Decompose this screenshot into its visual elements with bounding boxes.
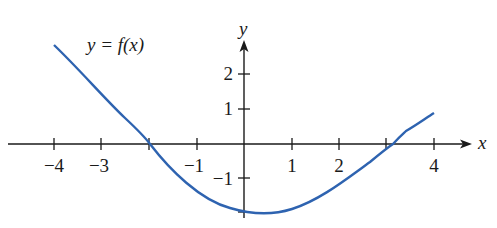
x-tick-label: 4 xyxy=(429,155,439,176)
x-axis-label: x xyxy=(477,132,487,153)
y-tick-label: 2 xyxy=(224,63,234,84)
x-tick-label: −1 xyxy=(184,155,204,176)
function-graph: −4 −3 −1 1 2 4 2 1 −1 x y y = f(x) xyxy=(0,0,497,228)
function-label: y = f(x) xyxy=(85,34,144,56)
y-tick-label: 1 xyxy=(224,98,234,119)
y-tick-label: −1 xyxy=(213,168,233,189)
x-tick-label: 1 xyxy=(287,155,297,176)
y-axis-label: y xyxy=(237,18,248,39)
x-tick-label: −3 xyxy=(89,155,109,176)
x-tick-label: −4 xyxy=(44,155,65,176)
x-tick-label: 2 xyxy=(334,155,344,176)
